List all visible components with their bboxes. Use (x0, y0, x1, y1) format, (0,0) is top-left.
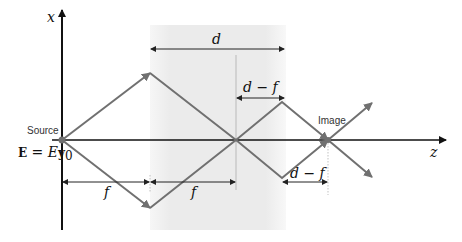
dim-d-minus-f-top-label: d − f (243, 79, 281, 95)
dim-d-label: d (212, 31, 221, 47)
source-label: Source (27, 125, 59, 136)
image-point (325, 137, 331, 143)
image-label: Image (318, 115, 346, 126)
field-equation: E = Ey0 (18, 144, 73, 163)
shaded-medium-region (150, 25, 286, 230)
source-point (59, 137, 66, 144)
z-axis-label: z (429, 144, 438, 160)
dim-f-left-label: f (103, 184, 112, 200)
optical-diagram: x z Source Image E = Ey0 d d − f d − f f… (0, 0, 462, 242)
x-axis-label: x (47, 9, 55, 25)
dim-d-minus-f-bottom-label: d − f (290, 165, 328, 181)
